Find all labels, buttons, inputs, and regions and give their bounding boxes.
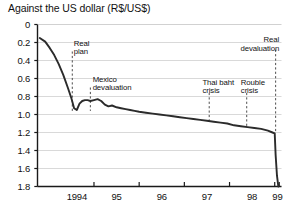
y-axis-tick-label: 1.8 [0, 182, 30, 192]
y-axis-tick-label: 0 [0, 20, 30, 30]
y-axis-tick-label: 1.4 [0, 146, 30, 156]
y-axis-tick-label: 0.4 [0, 56, 30, 66]
y-axis-tick-label: 1.2 [0, 128, 30, 138]
y-axis-tick-label: 1.0 [0, 110, 30, 120]
x-axis-tick-label: 1994 [57, 192, 97, 202]
chart-plot-area [0, 0, 287, 213]
annotation-label-mexico-devaluation: Mexico devaluation [93, 76, 132, 93]
x-axis-tick-label: 97 [187, 192, 227, 202]
y-axis-tick-label: 0.6 [0, 74, 30, 84]
chart-container: Against the US dollar (R$/US$) 00.20.40.… [0, 0, 287, 213]
annotation-label-rouble-crisis: Rouble crisis [241, 79, 265, 96]
x-axis-tick-label: 99 [257, 192, 287, 202]
annotation-label-real-devaluation: Real devaluation [0, 36, 279, 53]
y-axis-tick-label: 1.6 [0, 164, 30, 174]
y-axis-tick-label: 0.8 [0, 92, 30, 102]
x-axis-tick-label: 95 [97, 192, 137, 202]
annotation-label-thai-baht-crisis: Thai baht crisis [202, 79, 234, 96]
x-axis-tick-label: 96 [142, 192, 182, 202]
